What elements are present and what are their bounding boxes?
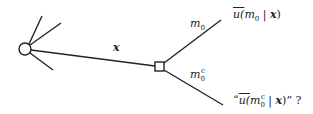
label-m0c-sup: c [201,67,205,75]
outcome-upper-fn: u( [233,8,244,21]
outcome-lower-question: ? [292,94,301,107]
spoke-3 [30,53,53,70]
label-x-var: x [113,41,120,54]
outcome-upper-var: m [244,8,254,21]
outcome-upper: u(m0 | x) [233,9,281,23]
outcome-lower-fn: u( [239,94,250,107]
outcome-upper-close: ) [277,8,281,21]
label-x: x [113,42,120,53]
label-m0c-var: m [190,68,200,81]
outcome-lower: “u(m0c | x)” ? [233,94,301,109]
spoke-2 [30,23,61,45]
outcome-lower-var: m [250,94,260,107]
label-m0-var: m [190,17,200,30]
chance-node [19,43,31,55]
outcome-upper-sep: | [259,8,270,21]
decision-node [155,62,164,71]
label-m0c: m0c [190,68,205,83]
spoke-1 [29,16,42,44]
outcome-lower-sep: | [265,94,276,107]
edge-observation [31,50,155,66]
label-m0-sub: 0 [200,24,204,32]
label-m0: m0 [190,18,205,32]
label-m0c-sub: 0 [200,75,204,83]
